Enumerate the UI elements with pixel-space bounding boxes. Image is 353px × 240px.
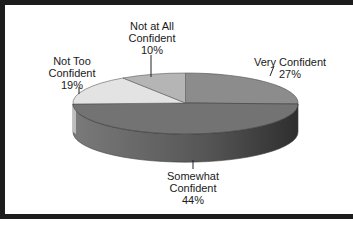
label-not-at-all-confident: Not at All Confident 10% bbox=[122, 20, 182, 56]
label-very-confident: Very Confident 27% bbox=[245, 56, 335, 80]
label-somewhat-confident: Somewhat Confident 44% bbox=[160, 170, 226, 206]
label-not-too-confident: Not Too Confident 19% bbox=[44, 55, 100, 91]
